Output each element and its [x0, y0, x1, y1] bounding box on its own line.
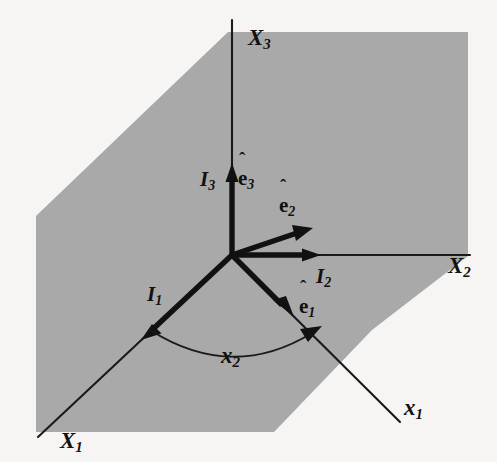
axis-label-x3: X3	[247, 25, 271, 52]
diagram-figure: X3 X2 X1 x1 I3 I2 I1 ˆ e3 ˆ	[0, 0, 497, 462]
shaded-plane	[36, 32, 468, 432]
axis-label-x1: X1	[59, 428, 83, 455]
axis-label-x2: X2	[447, 253, 471, 280]
diagram-canvas: X3 X2 X1 x1 I3 I2 I1 ˆ e3 ˆ	[0, 0, 497, 462]
axis-label-x1-rotated: x1	[403, 395, 423, 422]
